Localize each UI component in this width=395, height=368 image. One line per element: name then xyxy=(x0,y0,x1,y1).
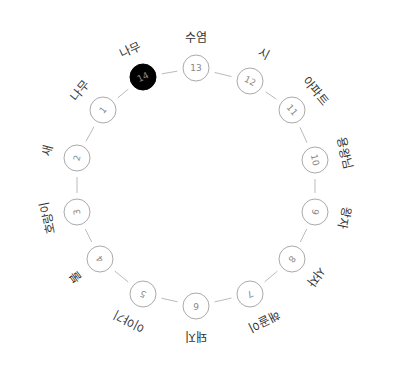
node-label: 나무 xyxy=(68,78,93,104)
connector-line xyxy=(85,229,91,242)
node-8[interactable]: 8사자 xyxy=(279,246,328,290)
diagram-canvas: 1나무2새3호랑이4불5이야기6돼지7해골이8사자9왕자10용왕님11아파트12… xyxy=(0,0,395,368)
node-label: 해골이 xyxy=(246,307,282,334)
node-11[interactable]: 11아파트 xyxy=(279,74,331,123)
node-13[interactable]: 13수염 xyxy=(183,31,209,81)
connector-line xyxy=(265,271,278,282)
node-10[interactable]: 10용왕님 xyxy=(302,135,355,173)
node-label: 수염 xyxy=(185,31,207,45)
node-label: 돼지 xyxy=(185,329,207,343)
connector-line xyxy=(118,89,129,98)
connector-line xyxy=(86,127,94,142)
node-label: 불 xyxy=(67,268,85,285)
node-number: 13 xyxy=(190,63,201,73)
node-label: 용왕님 xyxy=(334,135,355,170)
node-label: 나무 xyxy=(117,39,143,61)
node-1[interactable]: 1나무 xyxy=(68,78,116,123)
node-label: 새 xyxy=(40,144,56,158)
node-12[interactable]: 12시 xyxy=(237,45,272,94)
connector-line xyxy=(162,71,178,74)
connector-line xyxy=(115,271,129,282)
connector-line xyxy=(214,72,231,76)
node-label: 아파트 xyxy=(299,74,331,108)
node-7[interactable]: 7해골이 xyxy=(237,281,281,334)
node-6[interactable]: 6돼지 xyxy=(183,293,209,343)
connector-line xyxy=(215,298,232,302)
node-4[interactable]: 4불 xyxy=(67,246,113,285)
circular-word-diagram: 1나무2새3호랑이4불5이야기6돼지7해골이8사자9왕자10용왕님11아파트12… xyxy=(0,0,395,368)
node-5[interactable]: 5이야기 xyxy=(112,281,156,334)
node-label: 왕자 xyxy=(335,206,353,230)
connector-line xyxy=(162,298,178,302)
node-label: 시 xyxy=(255,45,271,62)
node-number: 6 xyxy=(193,301,199,311)
connector-line xyxy=(266,92,277,99)
node-14[interactable]: 14나무 xyxy=(117,39,156,90)
node-2[interactable]: 2새 xyxy=(40,144,90,171)
node-label: 호랑이 xyxy=(37,200,57,235)
connector-line xyxy=(300,229,306,242)
node-label: 이야기 xyxy=(112,307,148,334)
node-label: 사자 xyxy=(304,264,328,290)
node-9[interactable]: 9왕자 xyxy=(302,199,353,230)
node-3[interactable]: 3호랑이 xyxy=(37,199,90,235)
connector-line xyxy=(300,127,307,142)
